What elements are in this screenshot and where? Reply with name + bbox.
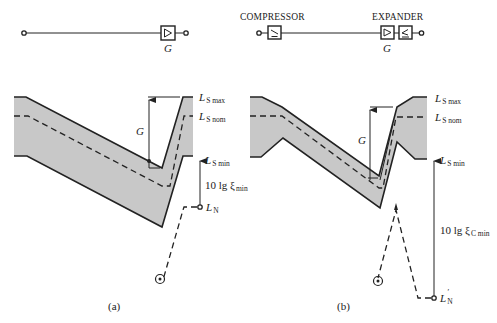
panel-a-gain-label: G xyxy=(136,126,144,137)
panel-a-ls-nom-label: LS nom xyxy=(199,111,226,124)
panel-a-ls-max-label: LS max xyxy=(199,92,225,105)
panel-b-level-band xyxy=(250,97,427,208)
panel-a-dynamic-range-label: 10 lg ξmin xyxy=(205,180,248,193)
panel-b-ls-min-label: LS min xyxy=(440,155,465,168)
output-terminal-icon xyxy=(419,31,423,35)
panel-a-level-band xyxy=(14,97,193,227)
panel-a-signal-chain xyxy=(22,26,188,40)
panel-b-ls-max-label: LS max xyxy=(435,93,461,106)
amplifier-block-icon xyxy=(161,26,175,40)
panel-a-block-gain-label: G xyxy=(164,43,172,54)
panel-b-signal-chain xyxy=(257,26,424,39)
panel-b-gain-label: G xyxy=(358,135,366,146)
input-terminal-icon xyxy=(22,31,26,35)
expander-label: EXPANDER xyxy=(372,12,423,22)
output-terminal-icon xyxy=(184,31,188,35)
noise-level-point-icon xyxy=(432,296,436,300)
panel-a-ln-label: LN xyxy=(206,202,219,215)
panel-b-block-gain-label: G xyxy=(383,43,391,54)
panel-b-dynamic-range-label: 10 lg ξC min xyxy=(440,225,490,238)
compander-level-diagram xyxy=(0,0,497,323)
panel-b-ln-prime-label: LN′ xyxy=(440,293,454,306)
panel-b-caption: (b) xyxy=(337,300,350,312)
compressor-label: COMPRESSOR xyxy=(240,12,305,22)
panel-b-ls-nom-label: LS nom xyxy=(435,112,462,125)
noise-level-point-icon xyxy=(198,205,202,209)
input-terminal-icon xyxy=(257,31,261,35)
panel-a-ls-min-label: LS min xyxy=(205,155,230,168)
panel-a-caption: (a) xyxy=(108,300,120,312)
